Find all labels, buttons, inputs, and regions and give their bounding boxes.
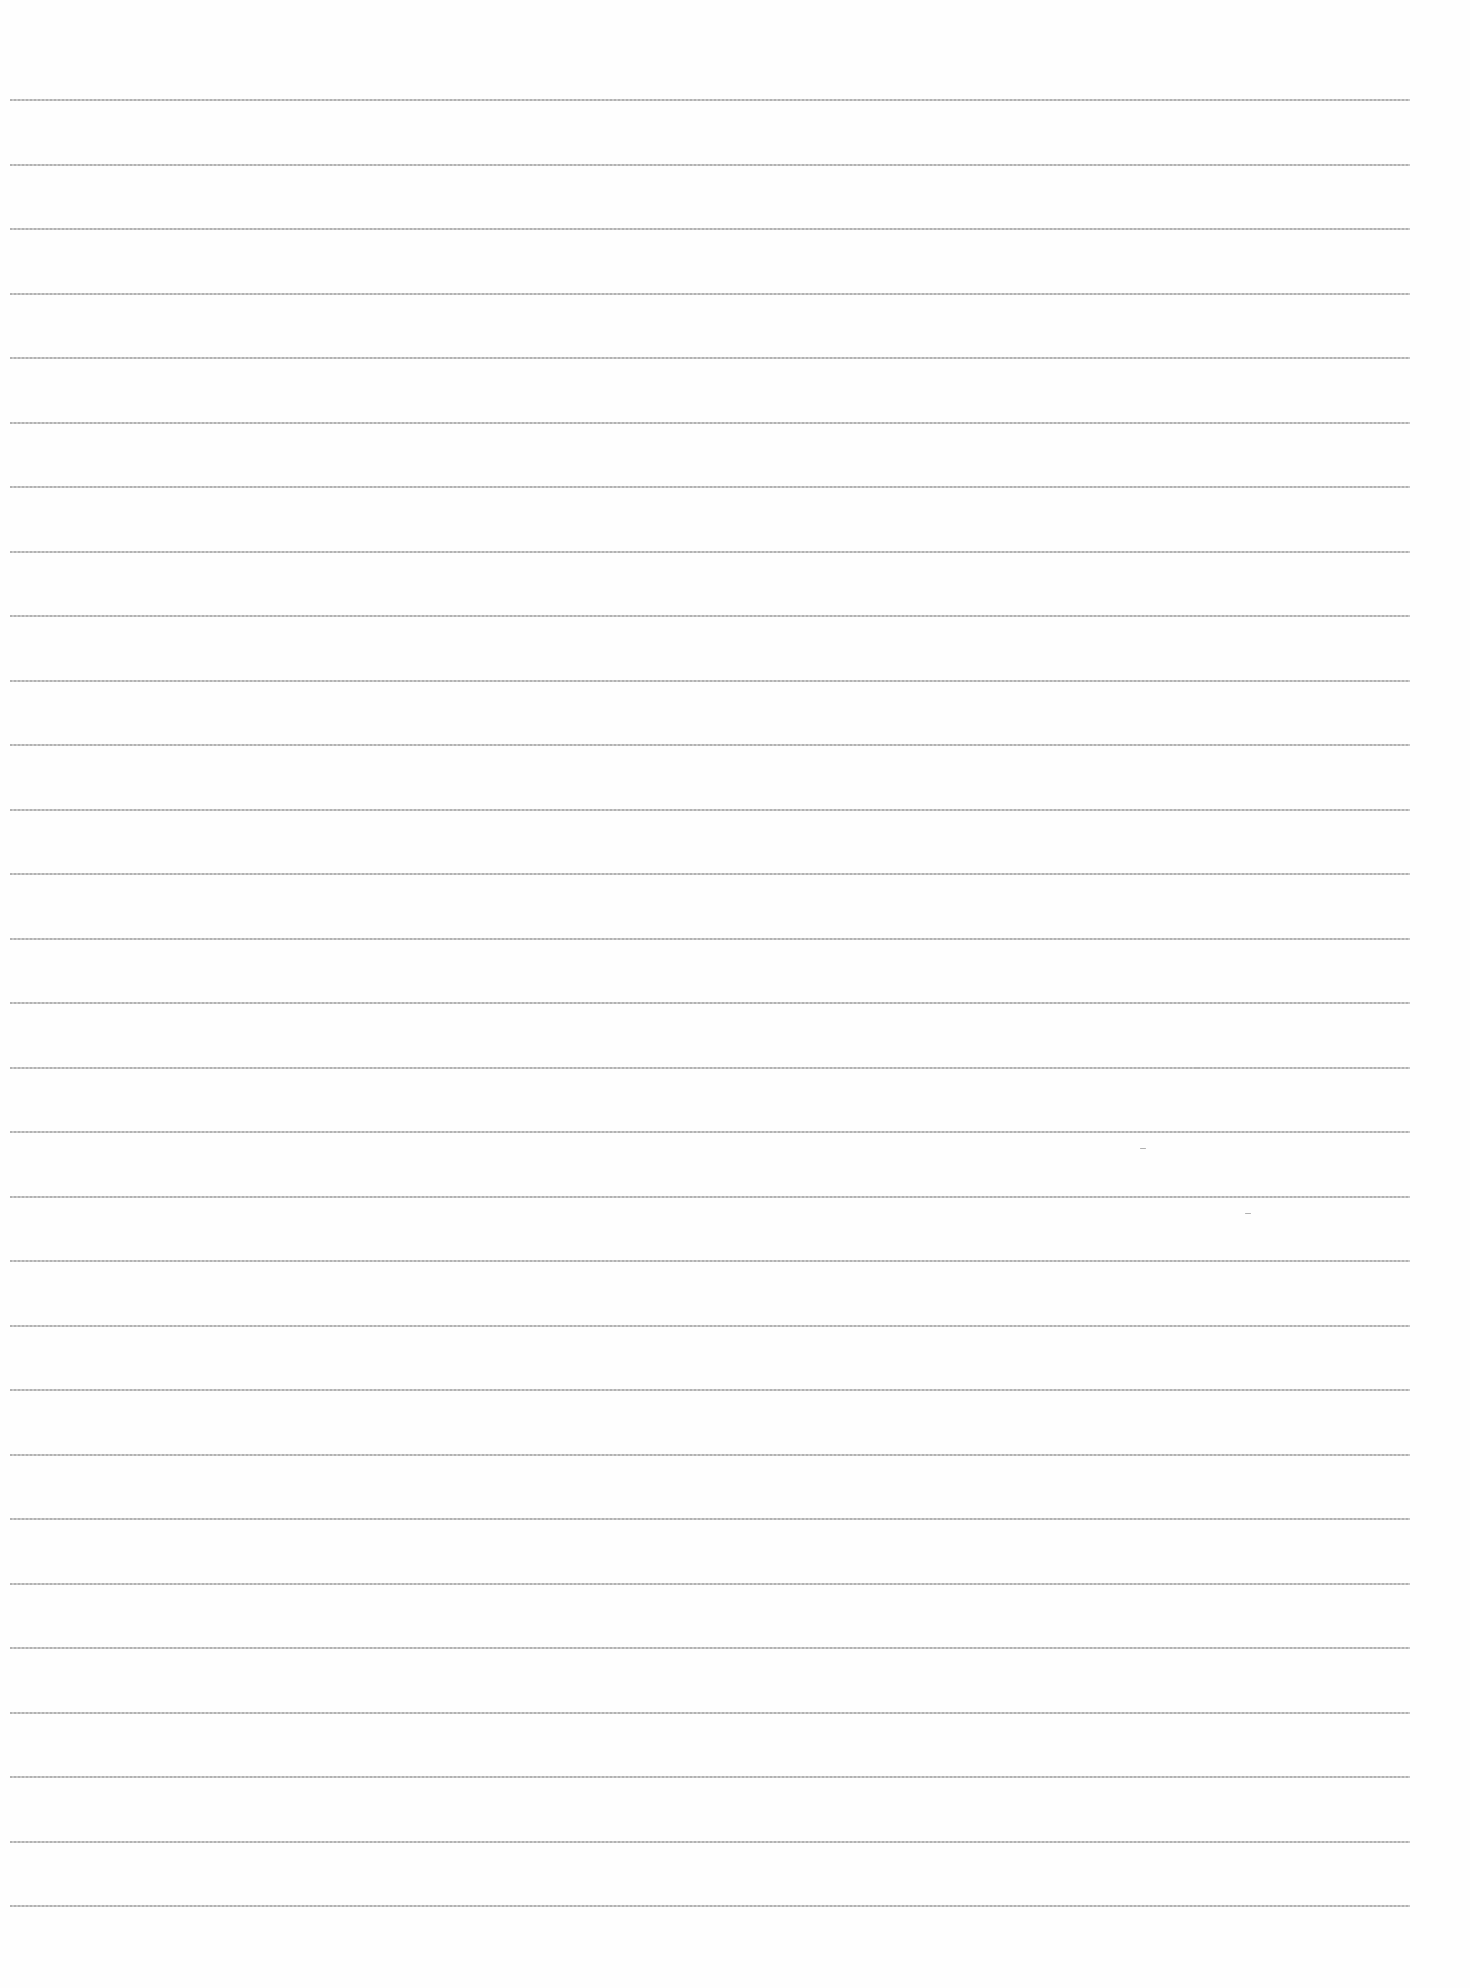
ruled-line	[10, 1131, 1410, 1133]
ruled-line	[10, 228, 1410, 230]
ruled-line	[10, 551, 1410, 553]
lined-paper-page	[0, 0, 1470, 1988]
ruled-line	[10, 293, 1410, 295]
ruled-line	[10, 680, 1410, 682]
ruled-line	[10, 1002, 1410, 1004]
ruled-line	[10, 422, 1410, 424]
ruled-line	[10, 1647, 1410, 1649]
ruled-line	[10, 744, 1410, 746]
ruled-line	[10, 1260, 1410, 1262]
scan-speck	[1140, 1148, 1146, 1149]
ruled-line	[10, 1583, 1410, 1585]
ruled-line	[10, 1518, 1410, 1520]
ruled-line	[10, 1712, 1410, 1714]
ruled-line	[10, 1325, 1410, 1327]
ruled-line	[10, 873, 1410, 875]
ruled-line	[10, 809, 1410, 811]
ruled-line	[10, 1776, 1410, 1778]
ruled-line	[10, 1454, 1410, 1456]
ruled-line	[10, 1196, 1410, 1198]
ruled-line	[10, 486, 1410, 488]
ruled-line	[10, 357, 1410, 359]
ruled-line	[10, 99, 1410, 101]
ruled-line	[10, 615, 1410, 617]
ruled-line	[10, 1389, 1410, 1391]
ruled-line	[10, 1905, 1410, 1907]
ruled-line	[10, 164, 1410, 166]
ruled-line	[10, 1841, 1410, 1843]
ruled-line	[10, 1067, 1410, 1069]
scan-speck	[1196, 1067, 1198, 1069]
ruled-line	[10, 938, 1410, 940]
scan-speck	[1245, 1213, 1251, 1214]
